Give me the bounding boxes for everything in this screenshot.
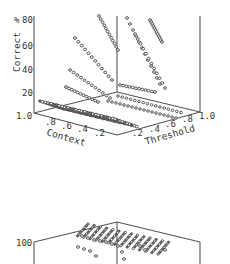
z-tick-60: 60	[22, 41, 33, 51]
z-tick-100: 100	[16, 238, 32, 248]
rising-streak-points	[65, 15, 167, 104]
context-tick: .8	[45, 117, 56, 127]
plot-top: % 80 60 40 20 Correct 1.0 .8 .6 .4 .2 Co…	[11, 15, 215, 148]
z-axis: % 80 60 40 20 Correct 1.0	[11, 15, 33, 121]
plot-bottom: 100	[16, 222, 200, 264]
context-tick: .4	[77, 124, 88, 134]
z-tick-80: 80	[22, 15, 33, 25]
corner-label: 1.0	[16, 111, 32, 121]
z-axis-label: Correct	[11, 32, 22, 72]
figure: % 80 60 40 20 Correct 1.0 .8 .6 .4 .2 Co…	[0, 0, 230, 264]
threshold-tick: .2	[132, 128, 143, 138]
threshold-tick: 1.0	[199, 111, 215, 121]
z-tick-40: 40	[22, 65, 33, 75]
z-prefix: %	[14, 15, 20, 25]
context-axis: .8 .6 .4 .2 Context	[45, 117, 105, 148]
z-tick-20: 20	[22, 88, 33, 98]
context-tick: .2	[94, 128, 105, 138]
